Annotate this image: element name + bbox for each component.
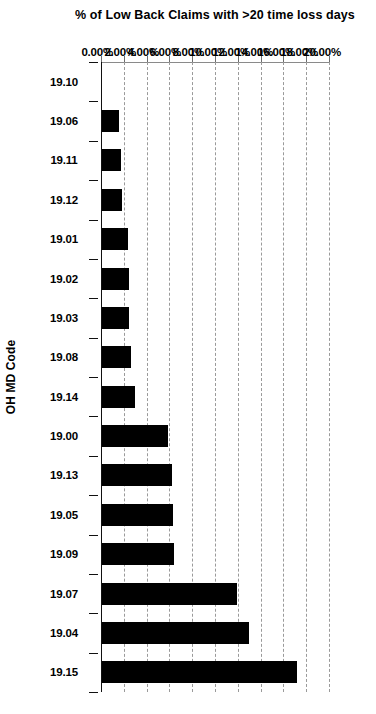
category-axis-tick	[89, 101, 98, 102]
category-label-slot: 19.15	[40, 653, 88, 692]
category-label-slot: 19.07	[40, 574, 88, 613]
bar-slot	[101, 495, 329, 534]
category-axis-tick	[89, 338, 98, 339]
bar[interactable]	[101, 464, 172, 486]
category-axis-ticks	[89, 62, 101, 692]
bar[interactable]	[101, 228, 128, 250]
gridline	[329, 62, 330, 692]
category-axis-label: 19.00	[50, 430, 78, 442]
category-axis-label: 19.13	[50, 469, 78, 481]
category-label-slot: 19.13	[40, 456, 88, 495]
category-axis-label: 19.06	[50, 115, 78, 127]
bar-slot	[101, 298, 329, 337]
category-label-slot: 19.08	[40, 338, 88, 377]
category-label-slot: 19.05	[40, 495, 88, 534]
category-label-slot: 19.04	[40, 613, 88, 652]
bar-slot	[101, 338, 329, 377]
category-axis-title: OH MD Code	[4, 62, 18, 692]
bar-slot	[101, 141, 329, 180]
bar[interactable]	[101, 149, 121, 171]
bar-slot	[101, 101, 329, 140]
category-axis-tick	[89, 692, 98, 693]
value-axis-tick-label: 20.00%	[303, 46, 341, 58]
category-axis-label: 19.11	[50, 154, 77, 166]
category-label-slot: 19.09	[40, 535, 88, 574]
category-axis-tick	[89, 377, 98, 378]
category-axis-label: 19.14	[50, 391, 78, 403]
category-axis-tick	[89, 495, 98, 496]
bar-slot	[101, 613, 329, 652]
category-axis-tick	[89, 62, 98, 63]
category-axis-label: 19.01	[50, 233, 78, 245]
bar[interactable]	[101, 268, 129, 290]
category-label-slot: 19.00	[40, 416, 88, 455]
bar-slot	[101, 180, 329, 219]
category-axis-label: 19.09	[50, 548, 78, 560]
bar-slot	[101, 416, 329, 455]
category-axis-tick	[89, 141, 98, 142]
category-axis-label: 19.15	[50, 666, 78, 678]
category-axis-tick	[89, 535, 98, 536]
bar[interactable]	[101, 583, 237, 605]
category-axis-tick	[89, 613, 98, 614]
bar-slot	[101, 220, 329, 259]
bar-series	[101, 62, 329, 692]
category-axis-tick	[89, 416, 98, 417]
bar[interactable]	[101, 425, 168, 447]
category-axis-line	[101, 62, 102, 692]
category-label-slot: 19.14	[40, 377, 88, 416]
category-label-slot: 19.06	[40, 101, 88, 140]
bar-slot	[101, 456, 329, 495]
bar[interactable]	[101, 307, 130, 329]
bar[interactable]	[101, 189, 122, 211]
bar[interactable]	[101, 543, 174, 565]
bar[interactable]	[101, 346, 131, 368]
bar-slot	[101, 62, 329, 101]
bar[interactable]	[101, 110, 119, 132]
category-axis-tick	[89, 259, 98, 260]
category-axis-tick	[89, 456, 98, 457]
category-axis-tick	[89, 653, 98, 654]
bar-slot	[101, 259, 329, 298]
category-axis-label: 19.04	[50, 627, 78, 639]
rotated-chart-figure: % of Low Back Claims with >20 time loss …	[0, 0, 376, 714]
category-axis-label: 19.10	[50, 76, 78, 88]
chart-area: % of Low Back Claims with >20 time loss …	[0, 0, 376, 714]
category-axis-label: 19.07	[50, 588, 78, 600]
value-axis-ticks: 0.00%2.00%4.00%6.00%8.00%10.00%12.00%14.…	[101, 0, 329, 62]
category-axis-label: 19.08	[50, 351, 78, 363]
bar[interactable]	[101, 661, 297, 683]
plot-region	[101, 62, 329, 692]
bar[interactable]	[101, 622, 249, 644]
category-label-slot: 19.02	[40, 259, 88, 298]
bar-slot	[101, 574, 329, 613]
category-axis-label: 19.12	[50, 194, 78, 206]
category-axis-label: 19.05	[50, 509, 78, 521]
bar-slot	[101, 535, 329, 574]
bar-slot	[101, 377, 329, 416]
category-axis-tick	[89, 220, 98, 221]
bar[interactable]	[101, 386, 135, 408]
category-label-slot: 19.01	[40, 220, 88, 259]
bar-slot	[101, 653, 329, 692]
category-label-slot: 19.12	[40, 180, 88, 219]
bar[interactable]	[101, 504, 173, 526]
category-label-slot: 19.11	[40, 141, 88, 180]
category-axis-label: 19.02	[50, 273, 78, 285]
category-axis-tick	[89, 574, 98, 575]
category-axis-tick	[89, 298, 98, 299]
category-axis-label: 19.03	[50, 312, 78, 324]
category-label-slot: 19.10	[40, 62, 88, 101]
category-label-slot: 19.03	[40, 298, 88, 337]
category-axis-tick	[89, 180, 98, 181]
category-axis-labels: 19.1019.0619.1119.1219.0119.0219.0319.08…	[40, 62, 88, 692]
